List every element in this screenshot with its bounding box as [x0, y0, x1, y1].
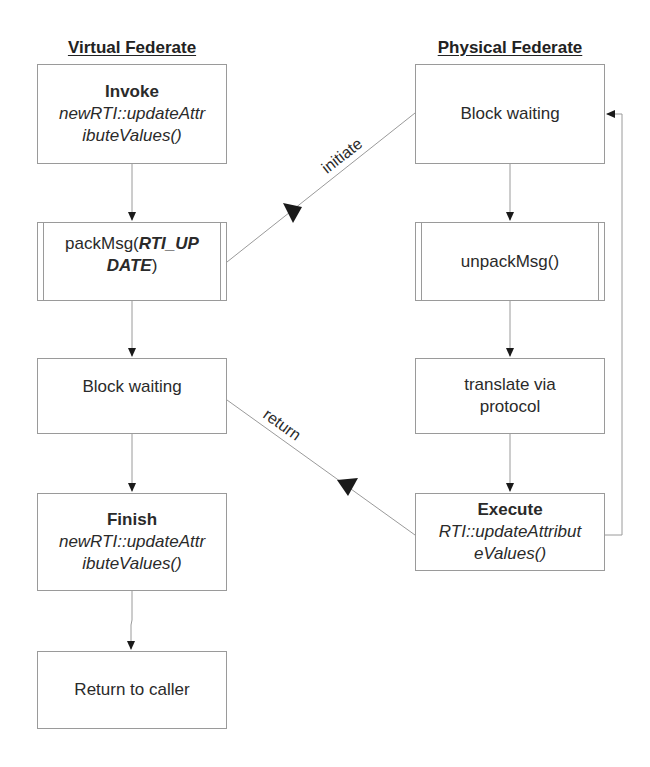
return-to-caller-label: Return to caller — [74, 679, 189, 701]
virtual-block-waiting-label: Block waiting — [82, 376, 181, 398]
execute-method-line-1: RTI::updateAttribut — [439, 521, 581, 543]
virtual-finish-box: Finish newRTI::updateAttr ibuteValues() — [37, 493, 227, 591]
initiate-arrowhead — [283, 203, 302, 223]
finish-method-line-1: newRTI::updateAttr — [59, 531, 205, 553]
invoke-label: Invoke — [105, 81, 159, 103]
physical-execute-box: Execute RTI::updateAttribut eValues() — [415, 493, 605, 571]
finish-label: Finish — [107, 509, 157, 531]
execute-method-line-2: eValues() — [474, 543, 546, 565]
packmsg-line-1: packMsg(RTI_UP — [65, 233, 199, 255]
return-arrowhead — [337, 478, 358, 496]
translate-line-2: protocol — [480, 396, 540, 418]
virtual-packmsg-box: packMsg(RTI_UP DATE) — [37, 222, 227, 301]
translate-line-1: translate via — [464, 374, 556, 396]
unpackmsg-label: unpackMsg() — [461, 251, 559, 273]
execute-label: Execute — [477, 499, 542, 521]
finish-method-line-2: ibuteValues() — [82, 553, 182, 575]
packmsg-line-2: DATE) — [107, 255, 158, 277]
virtual-invoke-box: Invoke newRTI::updateAttr ibuteValues() — [37, 64, 227, 164]
physical-translate-box: translate via protocol — [415, 358, 605, 434]
invoke-method-line-1: newRTI::updateAttr — [59, 103, 205, 125]
virtual-block-waiting-box: Block waiting — [37, 358, 227, 434]
physical-block-waiting-label: Block waiting — [460, 103, 559, 125]
physical-block-waiting-box: Block waiting — [415, 64, 605, 164]
physical-unpackmsg-box: unpackMsg() — [415, 222, 605, 301]
invoke-method-line-2: ibuteValues() — [82, 125, 182, 147]
virtual-return-box: Return to caller — [37, 651, 227, 729]
